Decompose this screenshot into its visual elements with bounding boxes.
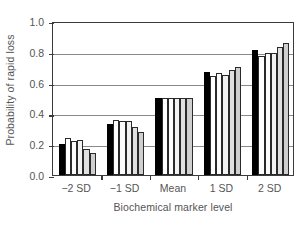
x-tick-label: −2 SD <box>52 181 100 195</box>
bar <box>138 132 144 175</box>
x-tickmark <box>150 175 151 180</box>
bar <box>235 67 241 175</box>
bar <box>283 43 289 175</box>
x-tick-label: −1 SD <box>100 181 148 195</box>
y-tickmark <box>49 146 54 147</box>
bar-series-container <box>53 23 293 175</box>
y-tickmark <box>49 54 54 55</box>
y-tickmark <box>49 85 54 86</box>
x-tick-label: 2 SD <box>246 181 294 195</box>
x-axis-title: Biochemical marker level <box>52 201 294 213</box>
y-tickmark <box>49 177 54 178</box>
y-tick-label: 0.6 <box>18 79 44 89</box>
x-axis-tick-labels: −2 SD−1 SDMean1 SD2 SD <box>52 181 294 197</box>
y-tick-label: 0.4 <box>18 109 44 119</box>
y-tick-label: 1.0 <box>18 17 44 27</box>
bar <box>186 98 192 175</box>
bar <box>90 153 96 175</box>
x-tickmark <box>101 175 102 180</box>
x-tick-label: 1 SD <box>197 181 245 195</box>
x-tickmark <box>247 175 248 180</box>
bar-chart-figure: Probability of rapid loss 1.00.80.60.40.… <box>0 0 304 227</box>
y-tick-label: 0.2 <box>18 140 44 150</box>
plot-area <box>52 22 294 176</box>
x-tick-label: Mean <box>149 181 197 195</box>
y-tickmark <box>49 115 54 116</box>
y-axis-tick-labels: 1.00.80.60.40.20.0 <box>14 0 44 227</box>
y-tick-label: 0.8 <box>18 48 44 58</box>
x-tickmark <box>198 175 199 180</box>
y-tickmark <box>49 23 54 24</box>
y-tick-label: 0.0 <box>18 171 44 181</box>
